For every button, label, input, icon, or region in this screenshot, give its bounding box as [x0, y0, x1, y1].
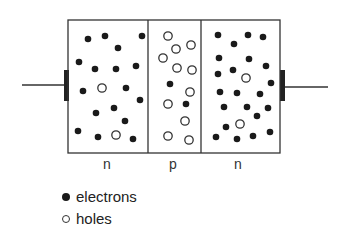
electron-dot: [183, 101, 190, 108]
electron-dot: [234, 136, 241, 143]
electron-dot: [217, 89, 224, 96]
electron-dot: [215, 32, 222, 39]
hole-circle: [242, 74, 250, 82]
electron-dot: [263, 63, 270, 70]
electron-dot: [215, 71, 222, 78]
region-label-n-right: n: [234, 156, 242, 172]
hole-circle: [188, 66, 196, 74]
electron-dot: [130, 136, 137, 143]
electron-dot: [221, 104, 228, 111]
hole-circle: [173, 64, 181, 72]
hole-circle: [164, 32, 172, 40]
hole-circle: [164, 100, 172, 108]
electron-dot: [234, 90, 241, 97]
electron-dot: [260, 34, 267, 41]
electron-dot: [80, 88, 87, 95]
electron-dot: [223, 124, 230, 131]
hole-circle: [164, 132, 172, 140]
electron-dot: [85, 36, 92, 43]
electron-dot: [167, 81, 174, 88]
legend-holes-label: holes: [76, 210, 112, 227]
hole-circle: [236, 120, 244, 128]
hole-circle: [172, 45, 180, 53]
electron-dot: [123, 85, 130, 92]
electron-dot: [139, 33, 146, 40]
electron-dot: [95, 134, 102, 141]
electron-dot: [92, 66, 99, 73]
electron-dot: [245, 32, 252, 39]
electron-dot: [133, 63, 140, 70]
electron-dot: [250, 133, 257, 140]
electron-dot: [257, 91, 264, 98]
region-label-p: p: [169, 156, 177, 172]
charge-carriers: [75, 32, 275, 145]
electron-dot: [102, 33, 109, 40]
electron-dot: [265, 105, 272, 112]
electron-dot: [113, 66, 120, 73]
electron-dot: [115, 45, 122, 52]
hole-circle: [112, 131, 120, 139]
hole-circle: [187, 41, 195, 49]
legend-electrons-label: electrons: [76, 188, 137, 205]
electron-symbol-icon: [62, 193, 70, 201]
electron-dot: [244, 104, 251, 111]
hole-circle: [185, 136, 193, 144]
electron-dot: [122, 118, 129, 125]
region-label-n-left: n: [103, 156, 111, 172]
electron-dot: [93, 110, 100, 117]
legend-electrons: electrons: [62, 188, 137, 205]
hole-circle: [181, 117, 189, 125]
electron-dot: [213, 134, 220, 141]
legend-holes: holes: [62, 210, 112, 227]
electron-dot: [216, 55, 223, 62]
electron-dot: [75, 128, 82, 135]
electron-dot: [254, 113, 261, 120]
electron-dot: [111, 105, 118, 112]
hole-symbol-icon: [62, 215, 70, 223]
electron-dot: [230, 67, 237, 74]
hole-circle: [186, 88, 194, 96]
electron-dot: [246, 56, 253, 63]
electron-dot: [268, 80, 275, 87]
npn-transistor-diagram: [0, 0, 342, 233]
electron-dot: [137, 97, 144, 104]
hole-circle: [98, 84, 106, 92]
electron-dot: [231, 41, 238, 48]
electron-dot: [76, 59, 83, 66]
hole-circle: [159, 54, 167, 62]
electron-dot: [267, 129, 274, 136]
right-electrode: [280, 70, 285, 101]
